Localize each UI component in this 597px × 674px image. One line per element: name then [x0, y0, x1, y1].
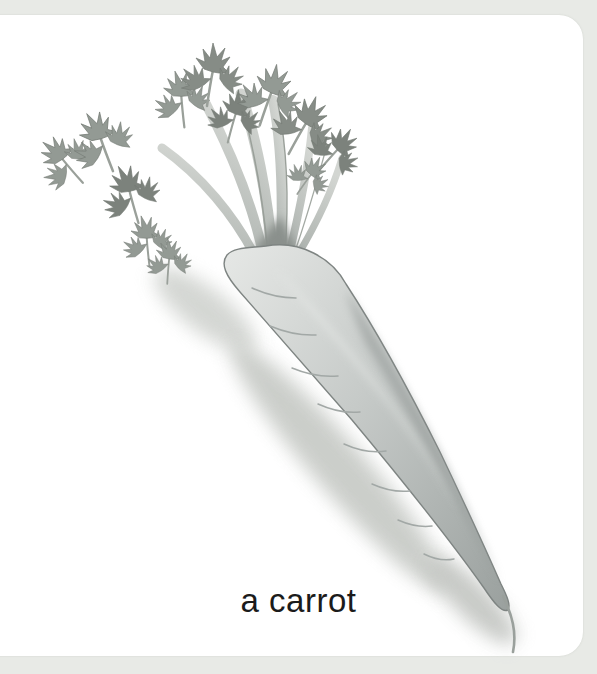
caption: a carrot	[0, 582, 597, 620]
flashcard-page: a carrot	[0, 0, 597, 674]
carrot-greens	[20, 43, 377, 286]
carrot-illustration	[0, 0, 597, 674]
